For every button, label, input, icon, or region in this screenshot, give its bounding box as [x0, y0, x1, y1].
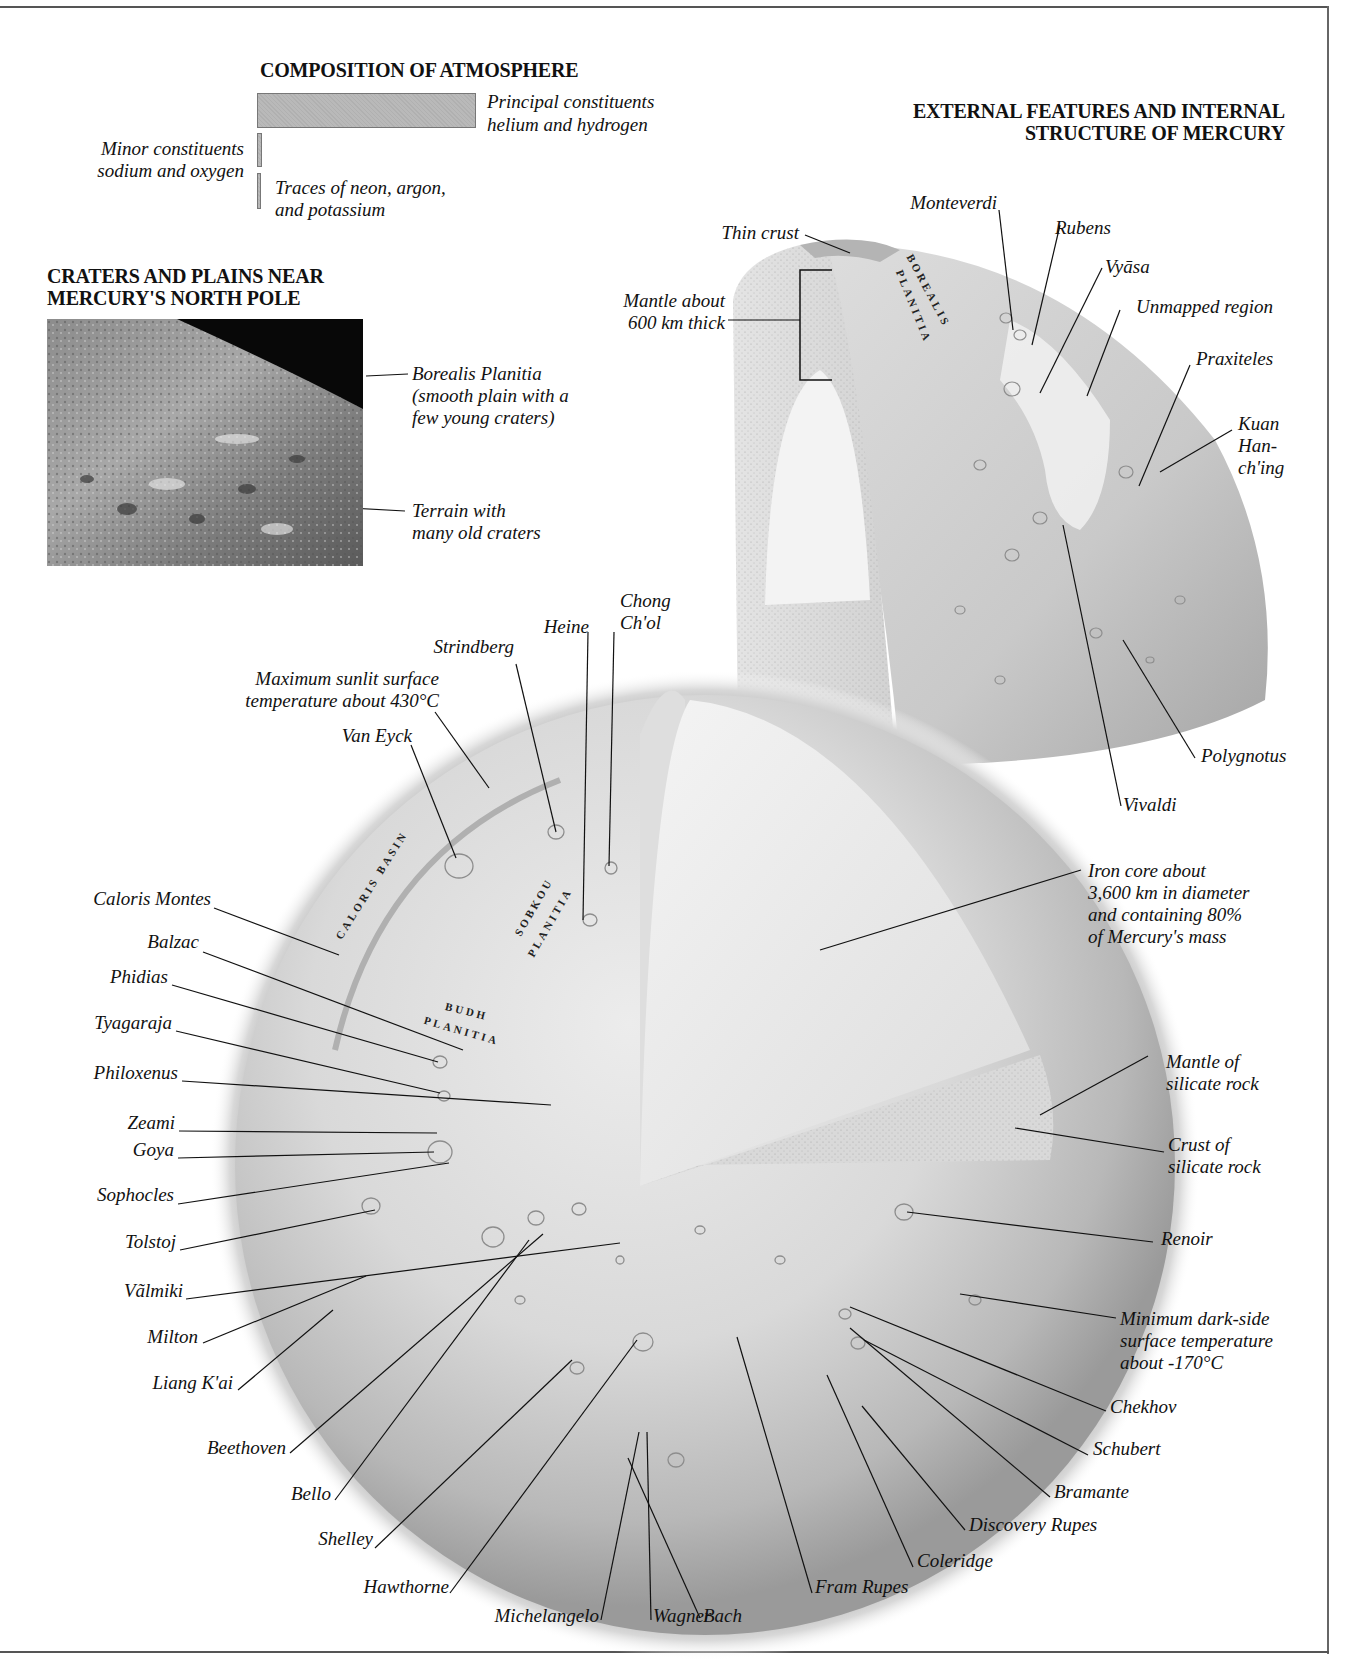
- principal-label-line1: Principal constituents: [487, 91, 654, 113]
- label-fram-rupes: Fram Rupes: [815, 1576, 908, 1598]
- main-title-line1: EXTERNAL FEATURES AND INTERNAL: [913, 101, 1285, 122]
- label-zeami: Zeami: [128, 1112, 176, 1134]
- principal-constituents-bar: [257, 93, 476, 128]
- globe-cutaway: [210, 670, 1200, 1660]
- label-crust-line1: Crust of: [1168, 1134, 1230, 1156]
- label-iron-core-line2: 3,600 km in diameter: [1088, 882, 1249, 904]
- label-liang-kai: Liang K'ai: [152, 1372, 233, 1394]
- label-unmapped-region: Unmapped region: [1136, 296, 1273, 318]
- label-tyagaraja: Tyagaraja: [94, 1012, 172, 1034]
- label-chong-line1: Chong: [620, 590, 671, 612]
- label-min-temp-line3: about -170°C: [1120, 1352, 1223, 1374]
- label-balzac: Balzac: [147, 931, 199, 953]
- north-pole-heading-line1: CRATERS AND PLAINS NEAR: [47, 266, 324, 287]
- label-max-temp-line2: temperature about 430°C: [245, 690, 439, 712]
- label-kuan-line2: Han-: [1238, 435, 1277, 457]
- borealis-label-line3: few young craters): [412, 407, 554, 429]
- label-renoir: Renoir: [1161, 1228, 1213, 1250]
- label-valmiki: Vãlmiki: [124, 1280, 183, 1302]
- traces-label-line1: Traces of neon, argon,: [275, 177, 446, 199]
- label-vyasa: Vyāsa: [1105, 256, 1150, 278]
- label-coleridge: Coleridge: [917, 1550, 993, 1572]
- label-sophocles: Sophocles: [97, 1184, 174, 1206]
- label-tolstoj: Tolstoj: [125, 1231, 176, 1253]
- label-beethoven: Beethoven: [207, 1437, 286, 1459]
- label-iron-core-line1: Iron core about: [1088, 860, 1206, 882]
- label-praxiteles: Praxiteles: [1196, 348, 1273, 370]
- label-heine: Heine: [544, 616, 589, 638]
- label-bach: Bach: [703, 1605, 742, 1627]
- label-goya: Goya: [133, 1139, 174, 1161]
- label-crust-line2: silicate rock: [1168, 1156, 1261, 1178]
- label-max-temp-line1: Maximum sunlit surface: [255, 668, 439, 690]
- minor-label-line2: sodium and oxygen: [97, 160, 244, 182]
- label-min-temp-line1: Minimum dark-side: [1120, 1308, 1269, 1330]
- label-monteverdi: Monteverdi: [910, 192, 997, 214]
- label-discovery-rupes: Discovery Rupes: [969, 1514, 1097, 1536]
- label-polygnotus: Polygnotus: [1201, 745, 1287, 767]
- minor-constituents-bar: [257, 133, 262, 167]
- atmosphere-heading: COMPOSITION OF ATMOSPHERE: [260, 60, 578, 81]
- label-iron-core-line4: of Mercury's mass: [1088, 926, 1226, 948]
- terrain-label-line2: many old craters: [412, 522, 541, 544]
- trace-constituents-bar: [257, 173, 261, 209]
- terrain-label-line1: Terrain with: [412, 500, 506, 522]
- label-rubens: Rubens: [1055, 217, 1111, 239]
- label-strindberg: Strindberg: [433, 636, 514, 658]
- label-mantle-line2: silicate rock: [1166, 1073, 1259, 1095]
- label-vivaldi: Vivaldi: [1123, 794, 1176, 816]
- borealis-label-line2: (smooth plain with a: [412, 385, 569, 407]
- label-kuan-line1: Kuan: [1238, 413, 1279, 435]
- mantle-thickness-label-line2: 600 km thick: [628, 312, 725, 334]
- principal-label-line2: helium and hydrogen: [487, 114, 648, 136]
- label-iron-core-line3: and containing 80%: [1088, 904, 1242, 926]
- north-pole-photo: [47, 319, 363, 566]
- thin-crust-label: Thin crust: [721, 222, 799, 244]
- label-min-temp-line2: surface temperature: [1120, 1330, 1273, 1352]
- label-chong-line2: Ch'ol: [620, 612, 661, 634]
- label-caloris-montes: Caloris Montes: [93, 888, 211, 910]
- north-pole-heading-line2: MERCURY'S NORTH POLE: [47, 288, 301, 309]
- label-shelley: Shelley: [318, 1528, 373, 1550]
- minor-label-line1: Minor constituents: [101, 138, 244, 160]
- main-title-line2: STRUCTURE OF MERCURY: [1025, 123, 1285, 144]
- mantle-thickness-label-line1: Mantle about: [623, 290, 725, 312]
- label-schubert: Schubert: [1093, 1438, 1161, 1460]
- label-philoxenus: Philoxenus: [94, 1062, 178, 1084]
- label-michelangelo: Michelangelo: [495, 1605, 599, 1627]
- borealis-label-line1: Borealis Planitia: [412, 363, 542, 385]
- label-mantle-line1: Mantle of: [1166, 1051, 1239, 1073]
- label-hawthorne: Hawthorne: [364, 1576, 450, 1598]
- label-kuan-line3: ch'ing: [1238, 457, 1284, 479]
- label-bramante: Bramante: [1054, 1481, 1129, 1503]
- label-bello: Bello: [291, 1483, 331, 1505]
- traces-label-line2: and potassium: [275, 199, 385, 221]
- label-van-eyck: Van Eyck: [342, 725, 412, 747]
- label-milton: Milton: [147, 1326, 198, 1348]
- label-phidias: Phidias: [110, 966, 168, 988]
- label-chekhov: Chekhov: [1110, 1396, 1176, 1418]
